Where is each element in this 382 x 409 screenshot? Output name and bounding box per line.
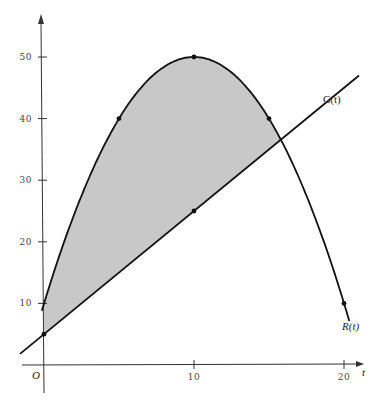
data-point-marker (117, 116, 122, 121)
x-axis-label: t (362, 366, 366, 378)
data-point-marker (192, 209, 197, 214)
shaded-region (44, 57, 281, 334)
y-tick-label: 40 (20, 114, 32, 124)
data-point-marker (42, 332, 47, 337)
data-point-marker (342, 301, 347, 306)
revenue-series-label: R(t) (341, 320, 359, 333)
data-point-marker (267, 116, 272, 121)
x-axis (22, 364, 356, 365)
x-tick-label: 10 (188, 372, 200, 382)
data-point-marker (192, 55, 197, 60)
y-tick-label: 20 (20, 237, 32, 247)
y-tick-label: 30 (20, 175, 32, 185)
origin-label: O (32, 369, 40, 381)
shaded-area (44, 57, 281, 334)
chart-canvas: 10201020304050C(t)R(t)Ot (0, 0, 382, 409)
y-tick-label: 50 (20, 52, 32, 62)
y-tick-label: 10 (20, 298, 32, 308)
x-tick-label: 20 (338, 372, 350, 382)
cost-series-label: C(t) (323, 93, 341, 106)
y-axis-arrow-icon (38, 14, 44, 24)
